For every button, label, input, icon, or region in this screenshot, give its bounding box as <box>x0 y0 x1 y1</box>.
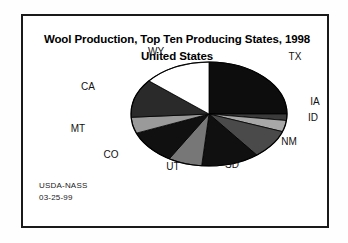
footer-date: 03-25-99 <box>39 192 87 204</box>
pie-slice-tx[interactable] <box>209 62 287 114</box>
chart-frame: Wool Production, Top Ten Producing State… <box>21 14 329 228</box>
pie-label-tx: TX <box>289 51 302 62</box>
pie-label-ca: CA <box>81 81 95 92</box>
pie-label-ut: UT <box>166 161 179 172</box>
pie-label-mt: MT <box>71 123 85 134</box>
pie-label-sd: SD <box>225 159 239 170</box>
footer-agency: USDA-NASS <box>39 180 87 192</box>
chart-canvas: Wool Production, Top Ten Producing State… <box>0 0 348 243</box>
pie-label-ia: IA <box>310 96 319 107</box>
pie-label-wy: WY <box>148 46 164 57</box>
pie-label-co: CO <box>104 149 119 160</box>
chart-footer: USDA-NASS 03-25-99 <box>39 180 87 204</box>
pie-label-nm: NM <box>281 136 297 147</box>
pie-label-id: ID <box>308 112 318 123</box>
